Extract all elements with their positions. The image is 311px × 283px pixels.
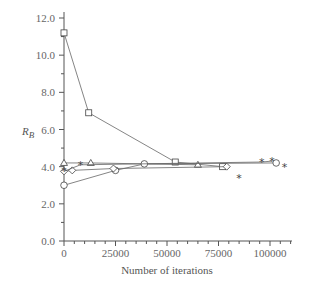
x-tick-label: 25000 (102, 247, 130, 259)
star-marker: * (259, 156, 265, 169)
x-tick-label: 100000 (254, 247, 288, 259)
series-line (64, 163, 276, 185)
star-marker: * (282, 161, 288, 174)
y-tick-label: 4.0 (41, 161, 55, 173)
y-tick-label: 12.0 (36, 12, 56, 24)
axes: 0.02.04.06.08.010.012.002500050000750001… (36, 12, 292, 259)
square-marker (61, 30, 67, 36)
y-axis-title-sub: B (29, 130, 35, 140)
star-marker: * (78, 159, 84, 172)
star-marker: * (236, 172, 242, 185)
y-tick-label: 8.0 (41, 86, 55, 98)
series-line (64, 161, 272, 171)
line-chart: 0.02.04.06.08.010.012.002500050000750001… (0, 0, 311, 283)
square-marker (86, 110, 92, 116)
x-axis-title: Number of iterations (121, 264, 213, 276)
y-tick-label: 0.0 (41, 235, 55, 247)
series-star: **** (61, 155, 275, 178)
y-axis-title: RB (21, 125, 35, 140)
x-tick-label: 50000 (153, 247, 181, 259)
circle-marker (61, 182, 68, 189)
star-marker: * (269, 155, 275, 168)
series-square (61, 30, 226, 170)
y-tick-label: 10.0 (36, 49, 56, 61)
y-tick-label: 6.0 (41, 124, 55, 136)
star-marker: * (61, 165, 67, 178)
x-tick-label: 75000 (205, 247, 233, 259)
x-tick-label: 0 (61, 247, 67, 259)
y-tick-label: 2.0 (41, 198, 55, 210)
series-line (64, 33, 223, 167)
data-series: ****** (61, 30, 288, 189)
